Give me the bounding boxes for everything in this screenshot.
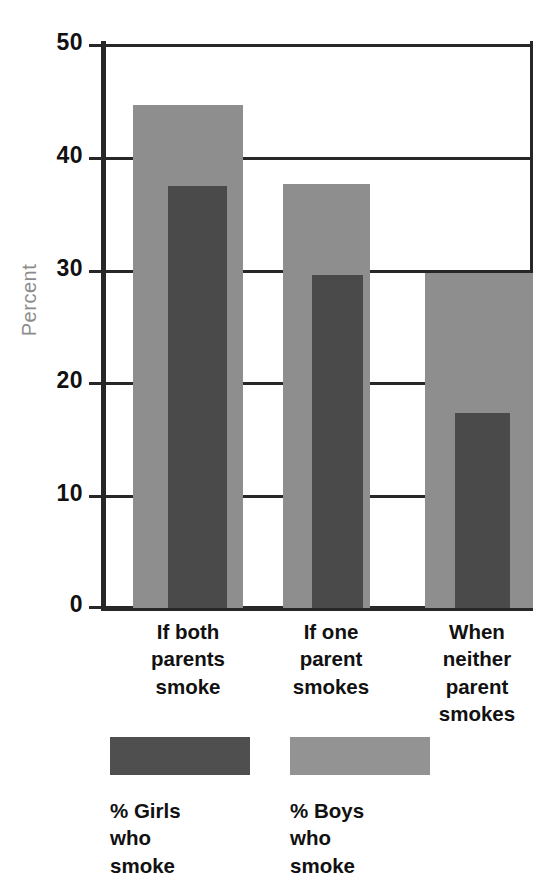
y-axis-line [101, 41, 106, 611]
bar-girls-if-both-parents-smoke [168, 186, 227, 608]
tick-40 [89, 157, 102, 160]
y-tick-label-10: 10 [56, 480, 83, 507]
legend-entry-boys: % Boyswhosmoke [290, 737, 430, 879]
tick-0 [89, 606, 102, 609]
y-axis-title: Percent [18, 264, 41, 336]
tick-50 [89, 44, 102, 47]
y-tick-label-30: 30 [56, 255, 83, 282]
grouped-bar-chart: Percent 50 40 30 20 10 0 If [0, 0, 559, 885]
plot-area: 50 40 30 20 10 0 [105, 44, 532, 608]
gridline-50 [105, 44, 532, 47]
bar-girls-if-one-parent-smokes [312, 275, 363, 608]
y-tick-label-20: 20 [56, 368, 83, 395]
legend-swatch-boys-icon [290, 737, 430, 775]
x-axis-category-label-1: If oneparentsmokes [266, 618, 396, 700]
chart-legend: % Girlswhosmoke % Boyswhosmoke [0, 737, 559, 885]
legend-label-girls: % Girlswhosmoke [110, 797, 250, 879]
tick-20 [89, 382, 102, 385]
y-tick-label-0: 0 [70, 591, 83, 618]
bar-girls-when-neither-parent-smokes [455, 413, 510, 608]
tick-30 [89, 270, 102, 273]
x-axis-category-label-2: Whenneitherparentsmokes [412, 618, 542, 727]
y-tick-label-40: 40 [56, 142, 83, 169]
y-tick-label-50: 50 [56, 29, 83, 56]
legend-swatch-girls-icon [110, 737, 250, 775]
legend-entry-girls: % Girlswhosmoke [110, 737, 250, 879]
x-axis-category-label-0: If bothparentssmoke [123, 618, 253, 700]
tick-10 [89, 495, 102, 498]
legend-label-boys: % Boyswhosmoke [290, 797, 430, 879]
